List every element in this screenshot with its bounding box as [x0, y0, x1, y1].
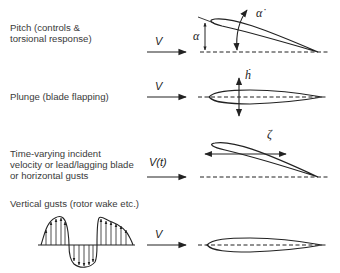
airfoil-pitched	[212, 143, 318, 177]
alpha-symbol: α	[193, 29, 200, 43]
velocity-label: V(t)	[149, 156, 167, 168]
gust-waveform	[41, 217, 133, 268]
gust-velocity-arrows	[46, 218, 126, 266]
airfoil-pitched	[211, 19, 318, 52]
alpha-dot-symbol: α̇	[256, 6, 266, 20]
plunge-diagram: V ḣ	[147, 68, 326, 116]
diagram-canvas: V α α̇ V ḣ V(t) ζ	[0, 0, 340, 273]
vertical-gusts-diagram: V	[38, 217, 328, 268]
pitch-diagram: V α α̇	[147, 6, 330, 52]
velocity-label: V	[155, 35, 164, 47]
h-dot-symbol: ḣ	[245, 68, 251, 82]
velocity-label: V	[155, 228, 164, 240]
velocity-label: V	[155, 80, 164, 92]
lead-lag-diagram: V(t) ζ	[147, 127, 330, 177]
pitch-rate-arrow	[237, 10, 247, 50]
zeta-symbol: ζ	[267, 127, 273, 141]
